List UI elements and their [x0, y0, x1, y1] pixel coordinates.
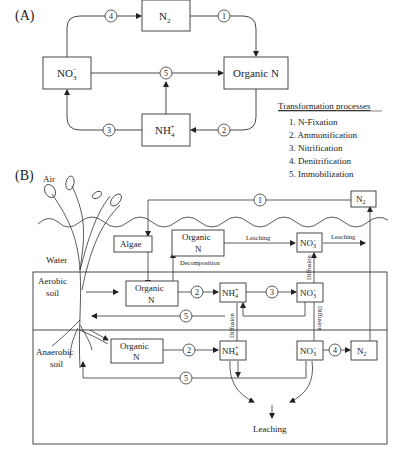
b-circle-1: 1	[258, 196, 262, 205]
legend-item: 4. Denitrification	[289, 156, 351, 166]
legend-item: 3. Nitrification	[289, 143, 343, 153]
b-circle-2: 2	[195, 288, 199, 297]
process-3-marker: 3	[107, 126, 111, 135]
organic-n-label: Organic N	[233, 67, 279, 79]
leaching-label: Leaching	[246, 234, 271, 241]
leaching-label: Leaching	[331, 233, 356, 240]
diffusion-label: Diffusion	[317, 306, 324, 332]
panel-a-label: (A)	[15, 8, 35, 24]
zone-water: Water	[46, 255, 67, 265]
zone-anaerobic: Anaerobic	[36, 347, 73, 357]
no3-label: NO3−	[300, 287, 317, 299]
nh4-label: NH4+	[222, 287, 239, 299]
zone-anaerobic: soil	[50, 359, 64, 369]
process-1-marker: 1	[222, 12, 226, 21]
organic-label: Organic	[120, 341, 149, 351]
b-circle-3: 3	[270, 288, 274, 297]
process-5-marker: 5	[164, 69, 168, 78]
organic-label: Organic	[135, 283, 164, 293]
legend-title: Transformation processes	[278, 101, 371, 111]
nitrogen-cycle-diagram: (A) N2 NO3− Organic N NH4+ 4 1 5 3 2 Tra…	[0, 0, 400, 456]
process-2-marker: 2	[222, 126, 226, 135]
panel-b-label: (B)	[15, 168, 34, 184]
organic-label: Organic	[182, 232, 211, 242]
no3-label: NO3−	[300, 345, 317, 357]
leaching-bottom-label: Leaching	[253, 424, 287, 434]
zone-air: Air	[43, 174, 55, 184]
diffusion-label: Diffusion	[228, 312, 235, 338]
legend-item: 1. N-Fixation	[289, 117, 338, 127]
process-4-marker: 4	[109, 12, 113, 21]
soil-frame	[33, 272, 387, 444]
b-circle-2: 2	[187, 346, 191, 355]
zone-aerobic: Aerobic	[38, 276, 67, 286]
organic-label: N	[148, 295, 155, 305]
decomposition-label: Decomposition	[180, 259, 220, 266]
water-surface	[38, 217, 388, 227]
nh4-label: NH4+	[222, 345, 239, 357]
legend-item: 2. Ammonification	[289, 130, 357, 140]
zone-aerobic: soil	[46, 288, 60, 298]
legend-item: 5. Immobilization	[289, 169, 354, 179]
diffusion-label: Diffusion	[305, 254, 312, 280]
b-circle-5: 5	[184, 374, 188, 383]
organic-label: N	[133, 352, 140, 362]
algae-label: Algae	[120, 239, 142, 249]
b-circle-4: 4	[333, 346, 337, 355]
b-circle-5: 5	[184, 312, 188, 321]
no3-label: NO3−	[300, 237, 317, 249]
organic-label: N	[195, 244, 202, 254]
